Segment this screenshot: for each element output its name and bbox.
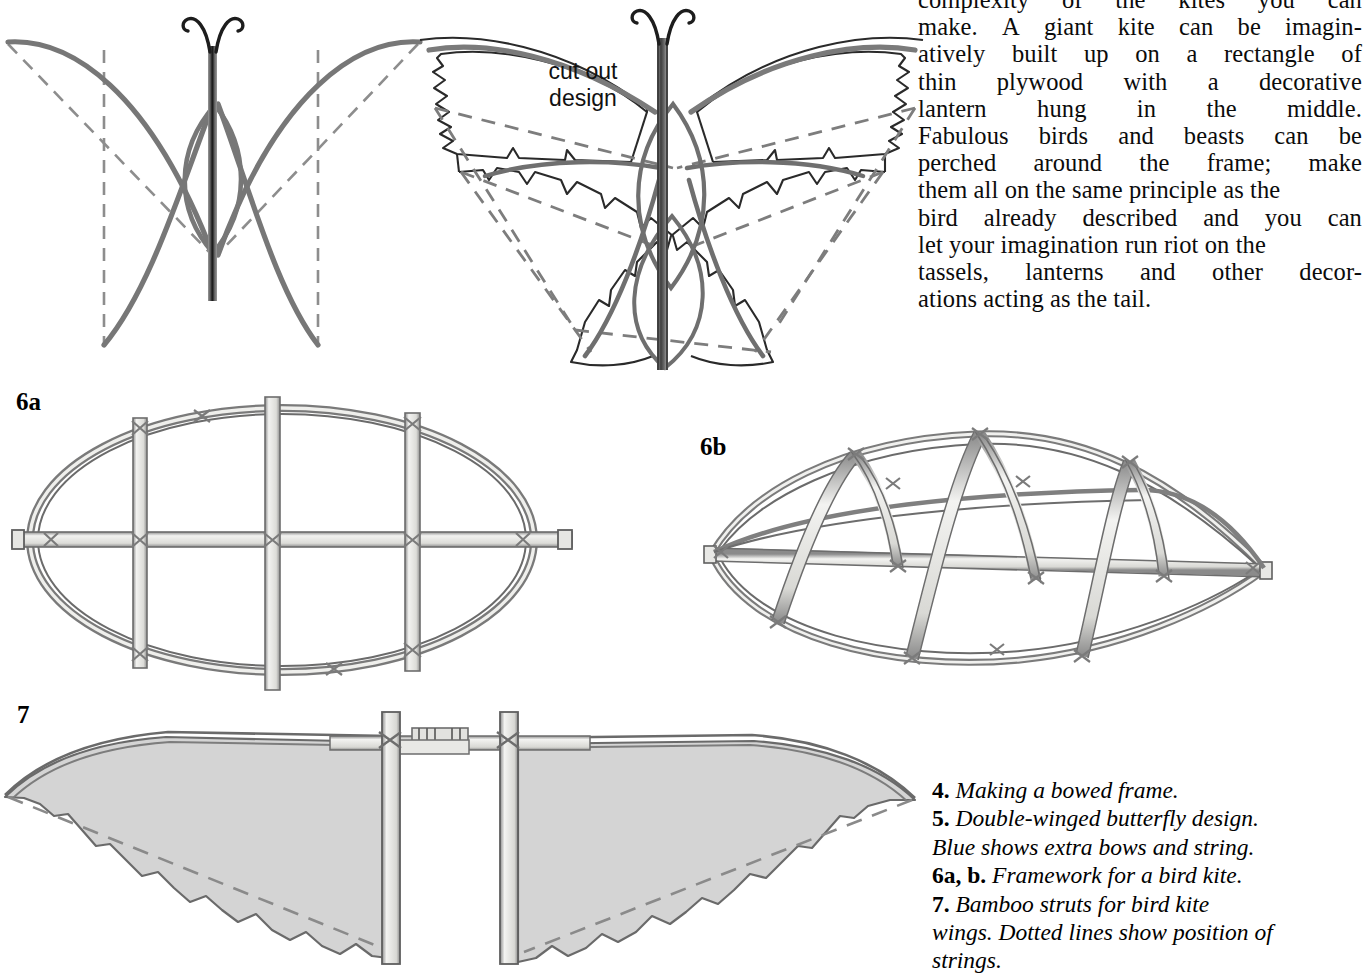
body-text-word: lanterns bbox=[1025, 258, 1103, 285]
body-text-word: tassels, bbox=[918, 258, 989, 285]
lashing-joint bbox=[1016, 476, 1030, 487]
body-text-line: tassels,lanternsandotherdecor- bbox=[918, 258, 1367, 285]
figure-caption-block: 4. Making a bowed frame.5. Double-winged… bbox=[932, 776, 1356, 973]
caption-line: wings. Dotted lines show position of bbox=[932, 918, 1356, 946]
body-text-word: a bbox=[1187, 40, 1198, 67]
caption-text: Double-winged butterfly design. bbox=[956, 805, 1260, 831]
body-text-line: perchedaroundtheframe;make bbox=[918, 149, 1367, 176]
caption-line: 5. Double-winged butterfly design. bbox=[932, 804, 1356, 832]
body-text-word: of bbox=[1341, 40, 1362, 67]
body-text-word: up bbox=[1084, 40, 1109, 67]
caption-text: strings. bbox=[932, 947, 1002, 973]
body-text-word: you bbox=[1265, 204, 1302, 231]
body-text-word: built bbox=[1012, 40, 1057, 67]
cut-out-design-annotation: cut out design bbox=[528, 58, 638, 112]
body-text-word: make. bbox=[918, 13, 978, 40]
dashed-string-lines bbox=[435, 108, 915, 352]
body-text-word: middle. bbox=[1287, 95, 1362, 122]
caption-text: Bamboo struts for bird kite bbox=[956, 891, 1210, 917]
body-text-word: the bbox=[1115, 0, 1145, 13]
body-text-word: decorative bbox=[1259, 68, 1362, 95]
body-text-line: thinplywoodwithadecorative bbox=[918, 68, 1367, 95]
body-text-column: complexityofthekitesyoucanmake.Agiantkit… bbox=[918, 0, 1367, 312]
right-wing-sail bbox=[518, 741, 915, 962]
caption-number: 6a, b. bbox=[932, 862, 986, 888]
caption-number: 4. bbox=[932, 777, 950, 803]
caption-text: Framework for a bird kite. bbox=[992, 862, 1242, 888]
body-text-word: can bbox=[1328, 204, 1362, 231]
figure-6b-bird-kite-framework-bowed bbox=[690, 420, 1290, 670]
caption-line: 7. Bamboo struts for bird kite bbox=[932, 890, 1356, 918]
right-vertical-strut bbox=[500, 712, 518, 964]
caption-number: 5. bbox=[932, 805, 950, 831]
body-text-word: already bbox=[984, 204, 1057, 231]
figure-label-6b: 6b bbox=[700, 434, 726, 459]
body-text-word: A bbox=[1002, 13, 1020, 40]
bowed-strut-2 bbox=[912, 434, 980, 658]
body-text-word: lantern bbox=[918, 95, 987, 122]
cut-out-line-1: cut out bbox=[528, 58, 638, 85]
upper-chord-string-2 bbox=[714, 500, 1150, 552]
body-text-word: described bbox=[1082, 204, 1177, 231]
body-text-word: kite bbox=[1118, 13, 1155, 40]
body-text-word: be bbox=[1339, 122, 1362, 149]
body-text-word: plywood bbox=[997, 68, 1083, 95]
body-text-word: the bbox=[1139, 149, 1169, 176]
body-text-word: a bbox=[1208, 68, 1219, 95]
body-text-line: complexityofthekitesyoucan bbox=[918, 0, 1367, 13]
left-wing-sail bbox=[5, 737, 388, 958]
left-vertical-strut bbox=[382, 712, 400, 964]
figure-5a-butterfly-kite bbox=[0, 0, 440, 385]
caption-line: strings. bbox=[932, 946, 1356, 973]
body-text-word: of bbox=[1062, 0, 1083, 13]
figure-label-6a: 6a bbox=[16, 389, 41, 414]
body-text-word: rectangle bbox=[1224, 40, 1315, 67]
mid-right-bow-spar bbox=[687, 162, 863, 176]
body-text-word: with bbox=[1123, 68, 1167, 95]
body-text-word: decor- bbox=[1299, 258, 1362, 285]
body-text-word: around bbox=[1033, 149, 1102, 176]
body-text-word: frame; bbox=[1207, 149, 1272, 176]
spine-left-cap bbox=[12, 530, 24, 549]
body-text-word: beasts bbox=[1184, 122, 1244, 149]
body-text-word: giant bbox=[1044, 13, 1094, 40]
body-text-word: on bbox=[1135, 40, 1160, 67]
body-text-word: other bbox=[1212, 258, 1263, 285]
figure-label-7: 7 bbox=[17, 702, 30, 727]
caption-line: 6a, b. Framework for a bird kite. bbox=[932, 861, 1356, 889]
body-text-word: imagin- bbox=[1285, 13, 1362, 40]
crossbar-lashing-band bbox=[395, 728, 469, 754]
body-text-word: be bbox=[1238, 13, 1261, 40]
figure-6a-bird-kite-framework bbox=[0, 385, 600, 685]
body-text-word: the bbox=[1206, 95, 1236, 122]
caption-number: 7. bbox=[932, 891, 950, 917]
spine-right-cap bbox=[558, 530, 572, 549]
body-text-line: birdalreadydescribedandyoucan bbox=[918, 204, 1367, 231]
spine-left-cap bbox=[704, 546, 716, 563]
cut-out-wing-outlines bbox=[420, 38, 923, 366]
figure-7-bamboo-struts-bird-kite-wings bbox=[0, 700, 920, 973]
body-text-word: hung bbox=[1037, 95, 1086, 122]
body-text-line: lanternhunginthemiddle. bbox=[918, 95, 1367, 122]
body-text-word: kites bbox=[1178, 0, 1225, 13]
lashing-joint bbox=[886, 478, 900, 489]
vertical-strut-right bbox=[405, 413, 420, 671]
mid-left-bow-spar bbox=[485, 162, 661, 176]
caption-text: Making a bowed frame. bbox=[956, 777, 1179, 803]
body-text-word: you bbox=[1258, 0, 1295, 13]
caption-text: wings. Dotted lines show position of bbox=[932, 919, 1273, 945]
body-text-word: thin bbox=[918, 68, 957, 95]
body-text-word: atively bbox=[918, 40, 985, 67]
caption-line: 4. Making a bowed frame. bbox=[932, 776, 1356, 804]
lashing-band-lower bbox=[395, 740, 469, 754]
caption-text: Blue shows extra bows and string. bbox=[932, 834, 1254, 860]
body-text-word: birds bbox=[1039, 122, 1089, 149]
dashed-sail-outline-left bbox=[8, 44, 213, 345]
body-text-line: make.Agiantkitecanbeimagin- bbox=[918, 13, 1367, 40]
body-text-line: let your imagination run riot on the bbox=[918, 231, 1367, 258]
body-text-word: can bbox=[1328, 0, 1362, 13]
lower-left-bow-spar bbox=[585, 180, 659, 356]
cut-out-line-2: design bbox=[528, 85, 638, 112]
body-text-word: bird bbox=[918, 204, 958, 231]
